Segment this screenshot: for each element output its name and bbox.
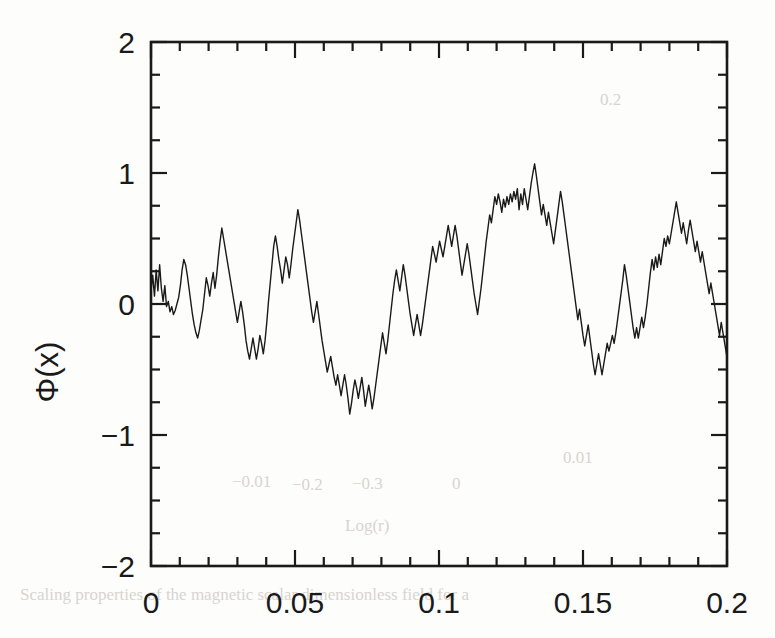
- x-tick-label: 0.1: [418, 586, 460, 619]
- y-axis-title: Φ(x): [30, 342, 65, 403]
- bleedthrough-text: −0.3: [352, 474, 383, 493]
- y-tick-label: 0: [118, 288, 135, 321]
- bleedthrough-text: 0.2: [600, 90, 621, 109]
- bleedthrough-text: Log(r): [345, 516, 389, 535]
- data-curve-layer: [151, 164, 727, 414]
- y-tick-label: −1: [101, 419, 135, 452]
- bleedthrough-layer: 0.01−0.01−0.2−0.30Log(r)0.2Scaling prope…: [20, 90, 621, 604]
- y-tick-label: −2: [101, 550, 135, 583]
- y-tick-label: 1: [118, 157, 135, 190]
- y-tick-labels: 210−1−2: [101, 26, 135, 583]
- x-tick-label: 0: [143, 586, 160, 619]
- plot-canvas: 0.01−0.01−0.2−0.30Log(r)0.2Scaling prope…: [0, 0, 775, 638]
- y-tick-label: 2: [118, 26, 135, 59]
- bleedthrough-text: −0.01: [232, 472, 271, 491]
- bleedthrough-text: 0: [452, 474, 461, 493]
- figure-container: 0.01−0.01−0.2−0.30Log(r)0.2Scaling prope…: [0, 0, 775, 638]
- series-phi-x: [151, 164, 727, 414]
- x-tick-label: 0.2: [706, 586, 748, 619]
- bleedthrough-text: −0.2: [292, 475, 323, 494]
- bleedthrough-text: 0.01: [563, 448, 593, 467]
- bleedthrough-text: Scaling properties of the magnetic scala…: [20, 585, 469, 604]
- x-tick-label: 0.15: [554, 586, 612, 619]
- x-tick-label: 0.05: [266, 586, 324, 619]
